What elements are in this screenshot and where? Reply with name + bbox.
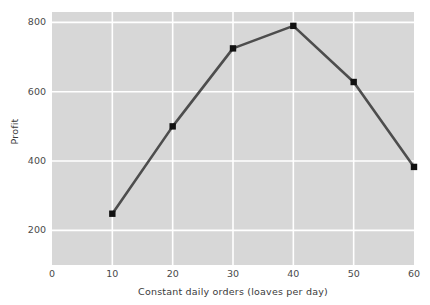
y-axis-title: Profit [9,102,20,162]
x-tick-label: 10 [97,268,127,279]
x-tick-label: 60 [399,268,429,279]
profit-line-chart: 200400600800 0102030405060 Profit Consta… [0,0,430,305]
x-tick-label: 40 [278,268,308,279]
x-tick-label: 50 [339,268,369,279]
x-tick-label: 0 [37,268,67,279]
x-tick-label: 20 [158,268,188,279]
x-axis-title: Constant daily orders (loaves per day) [52,286,414,297]
x-tick-label: 30 [218,268,248,279]
x-axis-ticks: 0102030405060 [0,0,430,305]
